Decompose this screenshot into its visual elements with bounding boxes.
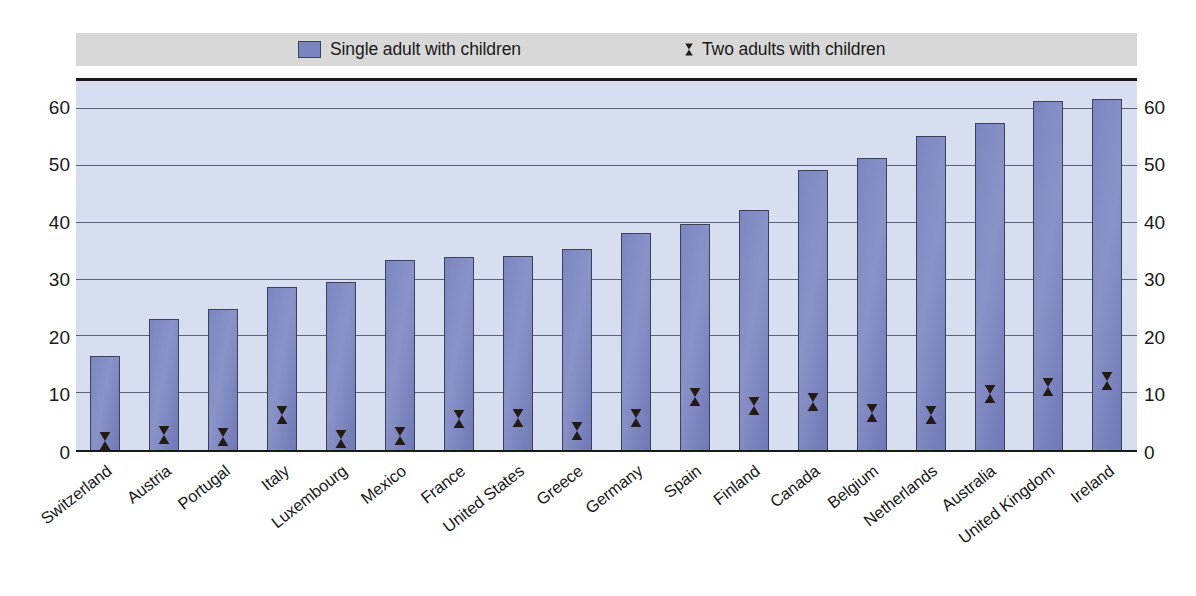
chart-legend: Single adult with children Two adults wi… [76, 33, 1137, 66]
diamond-marker-two-adults[interactable] [454, 410, 465, 428]
bar-series-container [76, 81, 1137, 450]
y-axis-tick-right: 60 [1144, 97, 1190, 116]
x-axis-labels: SwitzerlandAustriaPortugalItalyLuxembour… [76, 452, 1137, 596]
bar-group [724, 81, 783, 450]
bar-single-adult[interactable] [385, 260, 415, 450]
x-axis-tick-label: Spain [660, 461, 705, 502]
plot-area [76, 78, 1137, 452]
y-axis-tick-right: 30 [1144, 270, 1190, 289]
bar-single-adult[interactable] [267, 287, 297, 450]
bar-group [960, 81, 1019, 450]
diamond-marker-two-adults[interactable] [513, 409, 524, 427]
y-axis-left: 6050403020100 [24, 78, 70, 452]
x-axis-tick-slot: Ireland [1078, 452, 1137, 596]
bar-group [430, 81, 489, 450]
chart-figure: Single adult with children Two adults wi… [0, 0, 1196, 596]
bar-group [253, 81, 312, 450]
diamond-marker-two-adults[interactable] [866, 404, 877, 422]
bar-group [1078, 81, 1137, 450]
y-axis-tick-left: 50 [24, 155, 70, 174]
x-axis-tick-slot: Netherlands [901, 452, 960, 596]
bar-single-adult[interactable] [916, 136, 946, 451]
bar-single-adult[interactable] [326, 282, 356, 450]
x-axis-tick-slot: Finland [724, 452, 783, 596]
x-axis-tick-slot: Austria [135, 452, 194, 596]
y-axis-tick-left: 20 [24, 327, 70, 346]
y-axis-tick-right: 10 [1144, 385, 1190, 404]
bar-single-adult[interactable] [680, 224, 710, 450]
x-axis-tick-label: Italy [257, 461, 292, 494]
bar-single-adult[interactable] [1092, 99, 1122, 450]
bar-group [783, 81, 842, 450]
bar-group [371, 81, 430, 450]
x-axis-tick-slot: Greece [548, 452, 607, 596]
bar-group [548, 81, 607, 450]
diamond-marker-two-adults[interactable] [1102, 372, 1113, 390]
x-axis-tick-label: Switzerland [38, 461, 116, 528]
bar-single-adult[interactable] [562, 249, 592, 450]
legend-label-single-adult: Single adult with children [330, 39, 521, 60]
diamond-marker-two-adults[interactable] [1043, 378, 1054, 396]
y-axis-tick-left: 0 [24, 443, 70, 462]
x-axis-tick-slot: Portugal [194, 452, 253, 596]
x-axis-tick-slot: United Kingdom [1019, 452, 1078, 596]
y-axis-tick-right: 0 [1144, 443, 1190, 462]
y-axis-tick-left: 30 [24, 270, 70, 289]
legend-label-two-adults: Two adults with children [702, 39, 885, 60]
bar-group [76, 81, 135, 450]
diamond-marker-two-adults[interactable] [336, 430, 347, 448]
y-axis-tick-right: 50 [1144, 155, 1190, 174]
diamond-marker-two-adults[interactable] [925, 406, 936, 424]
diamond-marker-two-adults[interactable] [689, 388, 700, 406]
diamond-marker-two-adults[interactable] [395, 427, 406, 445]
diamond-marker-two-adults[interactable] [631, 409, 642, 427]
diamond-marker-icon [685, 43, 692, 55]
bar-group [489, 81, 548, 450]
diamond-marker-two-adults[interactable] [572, 422, 583, 440]
diamond-marker-two-adults[interactable] [807, 393, 818, 411]
diamond-marker-two-adults[interactable] [159, 426, 170, 444]
diamond-marker-two-adults[interactable] [748, 397, 759, 415]
bar-group [312, 81, 371, 450]
bar-group [842, 81, 901, 450]
bar-group [194, 81, 253, 450]
y-axis-tick-left: 60 [24, 97, 70, 116]
bar-group [1019, 81, 1078, 450]
bar-single-adult[interactable] [1033, 101, 1063, 450]
y-axis-tick-right: 40 [1144, 212, 1190, 231]
x-axis-tick-slot: Spain [665, 452, 724, 596]
x-axis-tick-slot: Switzerland [76, 452, 135, 596]
square-swatch-icon [298, 41, 321, 58]
x-axis-tick-slot: Canada [783, 452, 842, 596]
diamond-marker-two-adults[interactable] [100, 432, 111, 450]
bar-group [606, 81, 665, 450]
x-axis-tick-slot: Germany [606, 452, 665, 596]
x-axis-tick-slot: Mexico [371, 452, 430, 596]
y-axis-tick-right: 20 [1144, 327, 1190, 346]
y-axis-tick-left: 40 [24, 212, 70, 231]
x-axis-tick-slot: Luxembourg [312, 452, 371, 596]
bar-group [665, 81, 724, 450]
diamond-marker-two-adults[interactable] [218, 428, 229, 446]
y-axis-tick-left: 10 [24, 385, 70, 404]
diamond-marker-two-adults[interactable] [277, 406, 288, 424]
bar-group [135, 81, 194, 450]
y-axis-right: 6050403020100 [1144, 78, 1190, 452]
legend-item-two-adults: Two adults with children [683, 39, 885, 60]
x-axis-tick-slot: United States [489, 452, 548, 596]
bar-group [901, 81, 960, 450]
diamond-marker-two-adults[interactable] [984, 385, 995, 403]
legend-item-single-adult: Single adult with children [298, 39, 521, 60]
